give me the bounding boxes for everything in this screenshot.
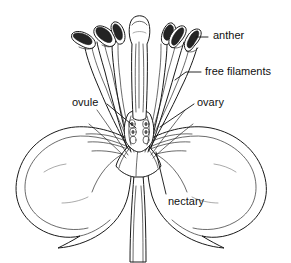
label-free-filaments: free filaments	[205, 66, 271, 77]
flower-illustration	[0, 0, 291, 263]
flower-anatomy-diagram: anther free filaments ovule ovary nectar…	[0, 0, 291, 263]
petal-right	[147, 127, 266, 248]
pedicel-group	[130, 175, 146, 262]
label-anther: anther	[213, 30, 244, 41]
leader-ovary	[160, 104, 194, 127]
anther-right-outer	[184, 29, 201, 52]
label-nectary: nectary	[168, 196, 204, 207]
anther-left-outer	[71, 31, 95, 49]
style-stigma-group	[129, 16, 150, 121]
label-ovule: ovule	[72, 97, 98, 108]
label-ovary: ovary	[197, 97, 224, 108]
